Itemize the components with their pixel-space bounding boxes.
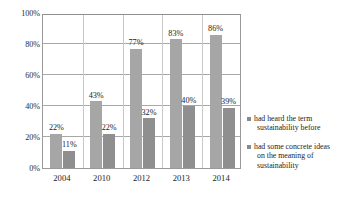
legend-entry: had some concrete ideason the meaning of… <box>247 142 357 170</box>
legend-swatch-icon <box>247 117 251 121</box>
bar-group: 83%40% <box>170 15 195 168</box>
bar-value-label: 86% <box>205 25 227 33</box>
legend-label-line: had heard the term <box>254 114 320 123</box>
y-axis-tick-label: 0% <box>4 165 40 173</box>
legend-label: had heard the termsustainability before <box>254 114 320 133</box>
x-axis: 20042010201220132014 <box>42 173 241 187</box>
bar-group: 77%32% <box>130 15 155 168</box>
y-axis-tick-label: 100% <box>4 10 40 18</box>
bar <box>63 151 75 168</box>
bar-group: 22%11% <box>50 15 75 168</box>
legend-label-line: had some concrete ideas <box>254 142 330 151</box>
bar-group: 86%39% <box>210 15 235 168</box>
bar <box>103 134 115 168</box>
bar-group: 43%22% <box>90 15 115 168</box>
bar <box>90 101 102 168</box>
y-axis: 100%80%60%40%20%0% <box>0 0 40 204</box>
bar-value-label: 11% <box>58 141 80 149</box>
plot-area: 22%11%43%22%77%32%83%40%86%39% <box>42 14 241 169</box>
bar-value-label: 83% <box>165 30 187 38</box>
legend-label: had some concrete ideason the meaning of… <box>254 142 330 170</box>
bars-layer: 22%11%43%22%77%32%83%40%86%39% <box>43 15 240 168</box>
x-axis-tick-label: 2013 <box>161 173 201 183</box>
y-axis-tick-label: 20% <box>4 134 40 142</box>
x-axis-tick-label: 2010 <box>82 173 122 183</box>
legend-label-line: sustainability <box>254 161 330 170</box>
bar <box>223 108 235 168</box>
legend-label-line: on the meaning of <box>254 151 330 160</box>
bar-chart-figure: 100%80%60%40%20%0% 22%11%43%22%77%32%83%… <box>0 0 360 204</box>
bar-value-label: 77% <box>125 39 147 47</box>
bar-value-label: 40% <box>178 97 200 105</box>
y-axis-tick-label: 40% <box>4 103 40 111</box>
bar-value-label: 39% <box>218 98 240 106</box>
bar <box>143 118 155 168</box>
bar-value-label: 22% <box>98 124 120 132</box>
bar-value-label: 32% <box>138 109 160 117</box>
legend-label-line: sustainability before <box>254 123 320 132</box>
legend-entry: had heard the termsustainability before <box>247 114 357 133</box>
x-axis-tick-label: 2004 <box>42 173 82 183</box>
legend-swatch-icon <box>247 145 251 149</box>
x-axis-tick-label: 2014 <box>201 173 241 183</box>
legend: had heard the termsustainability beforeh… <box>247 114 357 179</box>
x-axis-tick-label: 2012 <box>122 173 162 183</box>
bar <box>183 106 195 168</box>
bar <box>50 134 62 168</box>
y-axis-tick-label: 80% <box>4 41 40 49</box>
bar-value-label: 43% <box>85 92 107 100</box>
y-axis-tick-label: 60% <box>4 72 40 80</box>
bar-value-label: 22% <box>45 124 67 132</box>
